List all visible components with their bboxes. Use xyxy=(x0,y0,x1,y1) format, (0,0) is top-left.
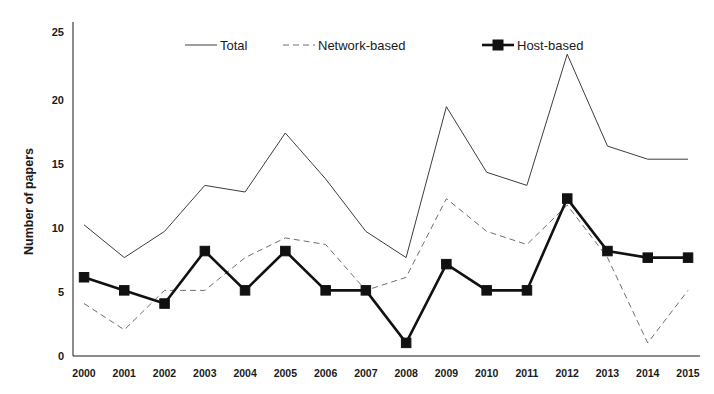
x-tick-label: 2007 xyxy=(354,367,378,379)
legend-item-host-based: Host-based xyxy=(482,38,583,53)
y-tick-label: 15 xyxy=(52,158,64,170)
data-point-marker xyxy=(240,286,250,296)
legend-label: Total xyxy=(220,38,248,53)
x-tick-label: 2012 xyxy=(556,367,580,379)
data-point-marker xyxy=(603,246,613,256)
y-axis-title: Number of papers xyxy=(22,148,36,255)
y-tick-label: 20 xyxy=(52,94,64,106)
data-point-marker xyxy=(160,299,170,309)
y-axis-ticks: 25 20 15 10 5 0 xyxy=(52,26,64,362)
line-chart: Number of papers 25 20 15 10 5 0 2000200… xyxy=(0,0,714,394)
data-point-marker xyxy=(321,286,331,296)
x-tick-label: 2005 xyxy=(274,367,298,379)
data-point-marker xyxy=(361,286,371,296)
legend-swatch-square-marker xyxy=(493,40,503,50)
legend-item-network-based: Network-based xyxy=(283,38,405,53)
series-layer xyxy=(79,54,693,347)
data-point-marker xyxy=(522,286,532,296)
y-tick-label: 25 xyxy=(52,26,64,38)
chart-legend: TotalNetwork-basedHost-based xyxy=(185,38,583,53)
data-point-marker xyxy=(563,194,573,204)
data-point-marker xyxy=(442,259,452,269)
x-tick-label: 2011 xyxy=(516,367,539,379)
data-point-marker xyxy=(120,286,130,296)
x-tick-label: 2014 xyxy=(636,367,660,379)
x-tick-label: 2001 xyxy=(113,367,137,379)
x-tick-label: 2003 xyxy=(193,367,217,379)
data-point-marker xyxy=(482,286,492,296)
data-point-marker xyxy=(401,338,411,348)
series-line-total xyxy=(84,54,688,257)
x-tick-label: 2010 xyxy=(475,367,499,379)
x-tick-label: 2002 xyxy=(153,367,177,379)
chart-container: Number of papers 25 20 15 10 5 0 2000200… xyxy=(0,0,714,394)
data-point-marker xyxy=(683,253,693,263)
legend-label: Host-based xyxy=(517,38,583,53)
y-tick-label: 0 xyxy=(58,350,64,362)
data-point-marker xyxy=(643,253,653,263)
x-tick-label: 2013 xyxy=(596,367,620,379)
data-point-marker xyxy=(79,273,89,283)
x-tick-label: 2006 xyxy=(314,367,338,379)
x-tick-label: 2008 xyxy=(394,367,418,379)
y-tick-label: 10 xyxy=(52,222,64,234)
data-point-marker xyxy=(281,246,291,256)
x-tick-label: 2004 xyxy=(233,367,257,379)
x-axis-ticks: 2000200120022003200420052006200720082009… xyxy=(72,367,700,379)
data-point-marker xyxy=(200,246,210,256)
y-tick-label: 5 xyxy=(58,286,64,298)
legend-item-total: Total xyxy=(185,38,248,53)
legend-label: Network-based xyxy=(318,38,405,53)
x-tick-label: 2009 xyxy=(435,367,459,379)
x-tick-label: 2000 xyxy=(72,367,96,379)
x-tick-label: 2015 xyxy=(676,367,700,379)
